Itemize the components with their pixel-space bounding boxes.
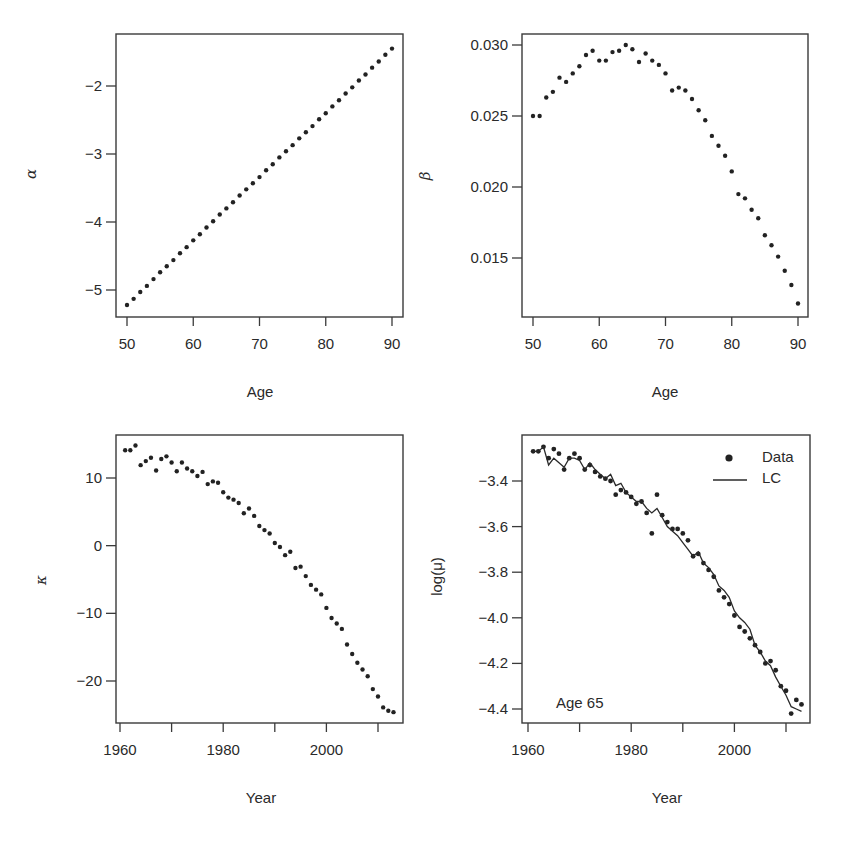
data-point — [690, 97, 694, 101]
data-point — [789, 711, 794, 716]
x-tick-label: 1980 — [207, 741, 240, 758]
data-point — [267, 531, 271, 535]
data-point — [357, 78, 361, 82]
data-point — [330, 104, 334, 108]
data-point — [206, 482, 210, 486]
data-point — [390, 46, 394, 50]
y-tick-label: −20 — [77, 672, 102, 689]
data-point — [391, 710, 395, 714]
x-tick-label: 2000 — [310, 741, 343, 758]
y-tick-label: −3.4 — [478, 472, 508, 489]
x-tick-label: 80 — [317, 335, 334, 352]
legend-dot-icon — [725, 454, 732, 461]
data-point — [195, 474, 199, 478]
data-point — [630, 47, 634, 51]
data-point — [377, 59, 381, 63]
data-point — [736, 192, 740, 196]
data-point — [231, 200, 235, 204]
kappa-xlabel: Year — [241, 789, 281, 806]
data-point — [604, 58, 608, 62]
data-point — [252, 514, 256, 518]
data-point — [677, 85, 681, 89]
beta-plot-frame — [522, 34, 808, 317]
data-point — [370, 65, 374, 69]
data-point — [218, 212, 222, 216]
data-point — [551, 447, 556, 452]
data-point — [277, 155, 281, 159]
data-point — [180, 460, 184, 464]
logmu-annotation: Age 65 — [556, 694, 604, 711]
data-point — [768, 659, 773, 664]
data-point — [236, 501, 240, 505]
data-point — [184, 245, 188, 249]
data-point — [216, 481, 220, 485]
data-point — [224, 206, 228, 210]
x-tick-label: 60 — [185, 335, 202, 352]
data-point — [123, 448, 127, 452]
data-point — [350, 85, 354, 89]
x-tick-label: 1980 — [615, 741, 648, 758]
data-point — [283, 553, 287, 557]
data-point — [363, 72, 367, 76]
data-point — [159, 457, 163, 461]
data-point — [749, 208, 753, 212]
data-point — [151, 277, 155, 281]
data-point — [204, 225, 208, 229]
data-point — [743, 196, 747, 200]
data-point — [686, 538, 691, 543]
panel-beta: 50607080900.0150.0200.0250.030 — [470, 34, 808, 352]
data-point — [613, 492, 618, 497]
beta-ylabel: β — [416, 172, 434, 181]
data-point — [644, 511, 649, 516]
data-point — [144, 459, 148, 463]
y-tick-label: −5 — [85, 281, 102, 298]
x-tick-label: 90 — [384, 335, 401, 352]
data-point — [158, 270, 162, 274]
data-point — [703, 118, 707, 122]
data-point — [371, 687, 375, 691]
data-point — [723, 154, 727, 158]
data-point — [340, 627, 344, 631]
data-point — [355, 661, 359, 665]
data-point — [317, 117, 321, 121]
data-point — [242, 511, 246, 515]
y-tick-label: 0.020 — [470, 178, 508, 195]
x-tick-label: 80 — [723, 335, 740, 352]
kappa-plot-frame — [116, 435, 403, 723]
y-tick-label: −10 — [77, 604, 102, 621]
x-tick-label: 90 — [790, 335, 807, 352]
data-point — [680, 531, 685, 536]
data-point — [237, 193, 241, 197]
data-point — [164, 454, 168, 458]
data-point — [264, 168, 268, 172]
y-tick-label: −4.0 — [478, 609, 508, 626]
data-point — [649, 531, 654, 536]
data-point — [293, 566, 297, 570]
data-point — [663, 71, 667, 75]
data-point — [747, 636, 752, 641]
figure-canvas: 5060708090−5−4−3−2 50607080900.0150.0200… — [0, 0, 843, 843]
data-point — [796, 301, 800, 305]
x-tick-label: 70 — [657, 335, 674, 352]
lc-fit-line — [533, 447, 801, 712]
data-point — [288, 550, 292, 554]
data-point — [544, 95, 548, 99]
data-point — [717, 588, 722, 593]
beta-xlabel: Age — [645, 383, 685, 400]
data-point — [597, 58, 601, 62]
data-point — [350, 652, 354, 656]
data-point — [794, 697, 799, 702]
data-point — [776, 254, 780, 258]
data-point — [756, 216, 760, 220]
y-tick-label: 0 — [94, 537, 102, 554]
data-point — [730, 169, 734, 173]
y-tick-label: 0.015 — [470, 249, 508, 266]
data-point — [133, 443, 137, 447]
data-point — [577, 64, 581, 68]
data-point — [128, 448, 132, 452]
data-point — [376, 694, 380, 698]
data-point — [185, 466, 189, 470]
data-point — [154, 468, 158, 472]
y-tick-label: 0.030 — [470, 36, 508, 53]
data-point — [138, 463, 142, 467]
